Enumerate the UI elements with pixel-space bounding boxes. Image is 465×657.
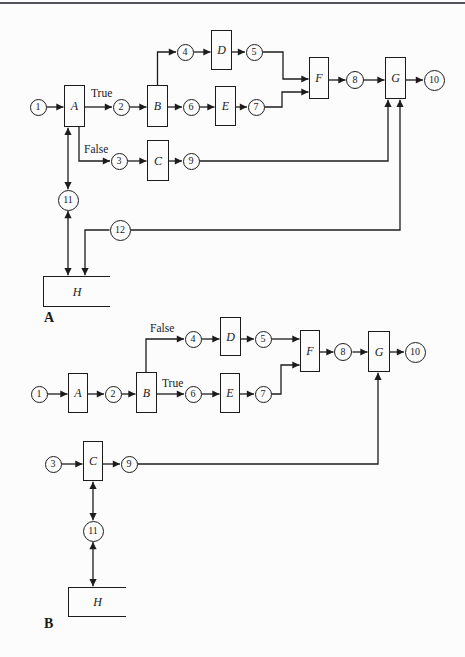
fig-a-node-12: 12 — [110, 220, 131, 241]
fig-b-node-10: 10 — [405, 342, 426, 363]
fig-b-block-c: C — [83, 441, 103, 481]
fig-b-edge-7-to-f — [272, 365, 300, 394]
fig-a-node-6: 6 — [183, 99, 200, 116]
fig-b-node-7: 7 — [255, 386, 272, 403]
fig-b-node-8: 8 — [334, 343, 352, 361]
fig-b-true-branch-label: True — [162, 378, 183, 390]
fig-a-node-2: 2 — [113, 99, 130, 116]
fig-a-node-9: 9 — [183, 153, 200, 170]
fig-b-block-a: A — [68, 373, 88, 413]
fig-b-block-e: E — [220, 373, 240, 413]
fig-a-node-5: 5 — [246, 44, 263, 61]
scanned-figure-page: 1 2 3 4 5 6 7 8 9 10 11 12 A B C D E F G… — [0, 0, 465, 657]
fig-b-node-6: 6 — [185, 386, 202, 403]
fig-a-false-branch-label: False — [84, 144, 108, 156]
fig-a-block-f: F — [309, 57, 329, 99]
fig-a-block-a: A — [64, 85, 85, 127]
fig-a-block-h: H — [43, 276, 110, 307]
fig-b-false-branch-label: False — [150, 323, 174, 335]
fig-b-block-d: D — [220, 317, 241, 356]
fig-a-node-11: 11 — [58, 190, 79, 211]
fig-b-node-9: 9 — [121, 456, 138, 473]
fig-b-block-f: F — [300, 330, 320, 372]
fig-a-node-10: 10 — [424, 70, 445, 91]
fig-b-node-1: 1 — [31, 386, 48, 403]
fig-b-block-g: G — [368, 331, 390, 372]
fig-a-block-e: E — [215, 86, 236, 126]
fig-a-node-7: 7 — [248, 99, 265, 116]
fig-a-block-c: C — [147, 140, 169, 181]
fig-a-true-branch-label: True — [91, 88, 112, 100]
fig-b-node-3: 3 — [45, 456, 62, 473]
fig-a-node-3: 3 — [111, 153, 128, 170]
fig-b-block-h: H — [68, 587, 126, 617]
fig-a-block-d: D — [211, 30, 232, 70]
fig-a-block-b: B — [147, 85, 168, 127]
fig-a-node-4: 4 — [177, 44, 194, 61]
fig-a-edge-5-to-f — [263, 52, 309, 79]
fig-b-node-2: 2 — [105, 386, 122, 403]
fig-a-edge-12-to-h — [85, 230, 110, 275]
fig-a-node-1: 1 — [30, 99, 47, 116]
fig-b-edge-b-false-to-4 — [146, 339, 184, 372]
fig-b-block-b: B — [136, 372, 157, 413]
fig-b-node-4: 4 — [185, 331, 202, 348]
fig-b-node-5: 5 — [255, 331, 272, 348]
fig-a-edge-7-to-f — [265, 92, 309, 107]
fig-a-caption: A — [44, 311, 54, 325]
fig-a-edge-12-to-g — [131, 100, 401, 230]
fig-b-node-11: 11 — [83, 521, 104, 542]
fig-a-edge-b-to-4 — [158, 52, 177, 85]
fig-b-caption: B — [44, 617, 53, 631]
fig-a-block-g: G — [385, 57, 406, 99]
fig-a-node-8: 8 — [346, 71, 364, 89]
